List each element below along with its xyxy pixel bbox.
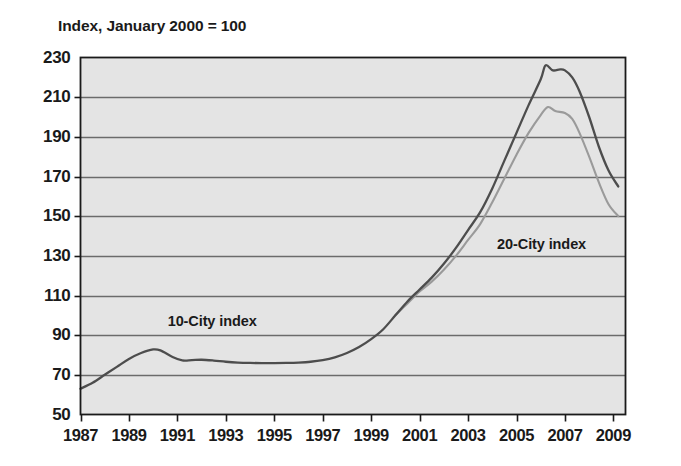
x-tick-label: 1991 [160,426,195,445]
x-tick-label: 2009 [596,426,631,445]
x-tick-label: 2005 [499,426,534,445]
y-tick-label: 170 [21,167,71,187]
y-tick-label: 150 [21,206,71,226]
x-tick-label: 1999 [354,426,389,445]
y-tick-label: 230 [21,48,71,68]
annotation-10-city-index: 10-City index [168,313,257,329]
chart-figure: Index, January 2000 = 100 23021019017015… [0,0,681,466]
y-tick-label: 210 [21,87,71,107]
x-tick-label: 1997 [305,426,340,445]
x-axis-ticks [82,415,614,422]
line-chart-svg [0,0,681,466]
annotation-20-city-index: 20-City index [497,236,586,252]
x-tick-label: 2007 [547,426,582,445]
y-tick-label: 110 [21,286,71,306]
y-tick-label: 130 [21,246,71,266]
x-tick-label: 1989 [111,426,146,445]
y-tick-label: 70 [21,365,71,385]
y-tick-label: 50 [21,405,71,425]
x-tick-label: 1993 [208,426,243,445]
x-tick-label: 2001 [402,426,437,445]
x-tick-label: 1995 [257,426,292,445]
plot-area: 230210190170150130110907050 198719891991… [0,0,681,466]
x-tick-label: 1987 [63,426,98,445]
x-tick-label: 2003 [450,426,485,445]
y-tick-label: 190 [21,127,71,147]
y-tick-label: 90 [21,325,71,345]
